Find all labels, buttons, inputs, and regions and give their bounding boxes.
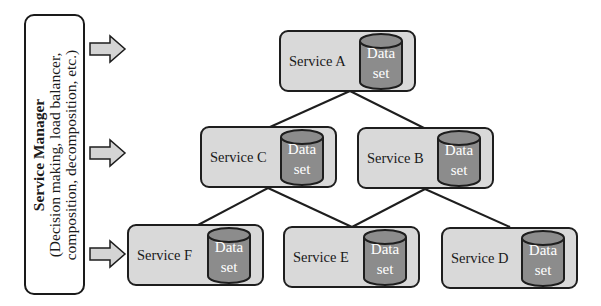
service-label: Service E: [293, 228, 349, 286]
edge-b-d: [425, 189, 510, 227]
service-b-node: Service B Data set: [357, 127, 494, 189]
edge-a-b: [350, 91, 424, 128]
service-manager-subtitle-line1: (Decision making, load balancer,: [47, 17, 63, 293]
arrow-right-icon: [90, 36, 125, 62]
edge-a-c: [270, 91, 350, 127]
dataset-label-line1: Data: [363, 239, 407, 259]
service-label: Service B: [367, 129, 424, 187]
service-manager-title: Service Manager: [31, 17, 47, 293]
dataset-label-line2: set: [521, 260, 565, 280]
dataset-label-line2: set: [437, 160, 481, 180]
dataset-label-line2: set: [363, 259, 407, 279]
edge-c-e: [268, 188, 352, 227]
service-d-node: Service D Data set: [441, 227, 578, 289]
dataset-label-line1: Data: [521, 240, 565, 260]
service-label: Service D: [451, 229, 509, 287]
dataset-label: Data set: [363, 239, 407, 279]
dataset-label: Data set: [521, 240, 565, 280]
dataset-label: Data set: [280, 139, 324, 179]
dataset-label: Data set: [207, 237, 251, 277]
edge-c-f: [198, 188, 268, 225]
service-hierarchy-diagram: Service Manager (Decision making, load b…: [0, 0, 601, 306]
dataset-label-line1: Data: [207, 237, 251, 257]
dataset-label-line1: Data: [359, 43, 403, 63]
service-c-node: Service C Data set: [200, 126, 337, 188]
dataset-label-line2: set: [280, 159, 324, 179]
service-label: Service F: [137, 226, 192, 284]
service-f-node: Service F Data set: [127, 224, 264, 286]
dataset-label-line1: Data: [437, 140, 481, 160]
dataset-label-line2: set: [359, 63, 403, 83]
dataset-label: Data set: [359, 43, 403, 83]
arrow-right-icon: [90, 241, 125, 267]
arrow-right-icon: [90, 140, 125, 166]
dataset-label: Data set: [437, 140, 481, 180]
service-label: Service C: [210, 128, 267, 186]
dataset-label-line2: set: [207, 257, 251, 277]
service-e-node: Service E Data set: [283, 226, 420, 288]
service-a-node: Service A Data set: [279, 30, 416, 92]
edge-b-e: [352, 189, 425, 227]
service-manager-box: Service Manager (Decision making, load b…: [24, 14, 85, 295]
service-label: Service A: [289, 32, 346, 90]
service-manager-text: Service Manager (Decision making, load b…: [31, 17, 79, 293]
service-manager-subtitle-line2: composition, decomposition, etc.): [63, 17, 79, 293]
dataset-label-line1: Data: [280, 139, 324, 159]
